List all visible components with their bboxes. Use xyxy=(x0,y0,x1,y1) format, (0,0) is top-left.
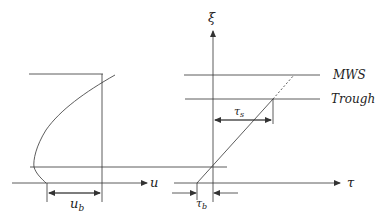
tau-b-label: τb xyxy=(196,197,207,211)
mws-label: MWS xyxy=(332,68,366,82)
velocity-profile-panel: u ub xyxy=(12,74,227,213)
shear-stress-panel: ξ MWS Trough τs τ τb xyxy=(172,10,375,211)
velocity-stress-diagram: u ub ξ MWS Trough τs τ τb xyxy=(0,0,387,220)
u-axis-label: u xyxy=(150,175,158,190)
trough-label: Trough xyxy=(331,92,375,106)
tau-s-label: τs xyxy=(234,105,244,119)
tau-axis-label: τ xyxy=(347,175,355,190)
ub-label: ub xyxy=(70,196,84,213)
stress-line-extension xyxy=(273,75,294,99)
xi-axis-label: ξ xyxy=(208,10,216,25)
